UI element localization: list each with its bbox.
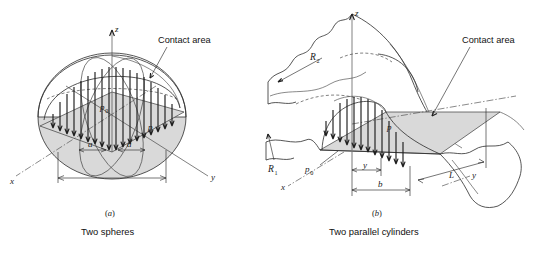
axis-x-label-a: x: [9, 176, 14, 186]
axis-x-label-b: x: [280, 182, 285, 192]
panel-b-caption: Two parallel cylinders: [329, 226, 419, 237]
label-p0-b: p 0: [304, 151, 338, 176]
dim-b-b-label: b: [378, 179, 383, 189]
label-p0-b-base: p: [304, 164, 310, 174]
axis-y-front-label: y: [471, 170, 476, 180]
label-R2-b: R 2: [278, 52, 322, 82]
dim-a-right-label: a: [127, 139, 132, 149]
label-p-a: p: [147, 122, 153, 132]
label-R1-sub: 1: [275, 169, 278, 176]
label-R1-base: R: [267, 164, 274, 174]
upper-cylinder-rear-arc: [378, 54, 418, 92]
upper-cylinder-rear-dash: [340, 53, 392, 62]
figure-root: z x y: [0, 0, 533, 256]
label-p-b: p: [386, 122, 392, 132]
dim-a-left-label: a: [88, 139, 93, 149]
callout-contact-area-b-label: Contact area: [462, 35, 515, 45]
panel-b-key: (b): [372, 208, 382, 218]
label-p0-b-sub: 0: [310, 169, 313, 176]
axis-z-label-a: z: [114, 24, 119, 34]
lower-cylinder-left-flank: [266, 139, 320, 150]
callout-contact-area-a-label: Contact area: [158, 35, 211, 45]
contact-stress-figure: z x y: [0, 0, 533, 256]
dim-L-b-label: L: [448, 170, 454, 180]
upper-cylinder-seam: [270, 72, 366, 96]
panel-a-group: z x y: [9, 24, 215, 237]
panel-a-key: (a): [105, 208, 115, 218]
label-p0-a-base: p: [99, 102, 105, 112]
label-R2-sub: 2: [317, 57, 320, 64]
upper-cylinder-far-arc: [500, 112, 524, 130]
upper-cylinder-torn-surface: [268, 14, 352, 82]
axis-x-line-b: [288, 152, 344, 186]
axis-z-label-b: z: [354, 8, 359, 18]
label-p0-a-sub: 0: [105, 107, 108, 114]
label-R2-base: R: [309, 52, 316, 62]
dim-y-b: y: [352, 152, 381, 176]
dim-y-b-label: y: [362, 160, 367, 170]
axis-y-label-a: y: [210, 172, 215, 182]
panel-a-caption: Two spheres: [81, 226, 134, 237]
panel-b-group: z x p p 0: [266, 8, 524, 237]
callout-contact-area-b: Contact area: [432, 35, 515, 116]
